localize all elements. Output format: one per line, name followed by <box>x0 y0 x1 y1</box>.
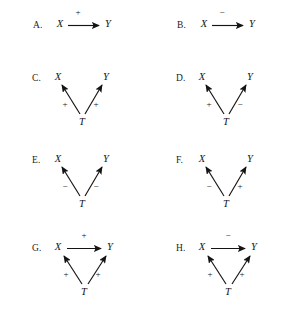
causal-diagram-figure: A. X Y + B. X Y − C. X <box>0 0 293 316</box>
panel-f: F. X Y T − + <box>146 144 293 216</box>
panel-b: B. X Y − <box>146 0 293 52</box>
panel-c: C. X Y T + + <box>0 62 146 134</box>
panel-h: H. X Y T − + + <box>146 226 293 316</box>
edge-arrows-b <box>146 0 293 52</box>
panel-d: D. X Y T + − <box>146 62 293 134</box>
panel-e: E. X Y T − − <box>0 144 146 216</box>
edge-arrows-h <box>146 226 293 316</box>
panel-a: A. X Y + <box>0 0 146 52</box>
edge-arrows-f <box>146 144 293 216</box>
edge-arrows-g <box>0 226 146 316</box>
edge-arrows-e <box>0 144 146 216</box>
panel-g: G. X Y T + + + <box>0 226 146 316</box>
edge-arrows-c <box>0 62 146 134</box>
edge-arrows-d <box>146 62 293 134</box>
edge-arrows-a <box>0 0 146 52</box>
